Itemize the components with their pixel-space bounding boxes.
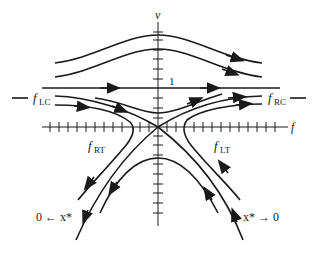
level-marker-label: 1: [169, 75, 175, 87]
f-lt-subscript: LT: [220, 145, 231, 155]
f-axis-label: f: [291, 120, 296, 134]
right-turning-arrow-out: [236, 104, 246, 105]
phase-portrait-diagram: v f 1 f LC f RC f RT f LT 0 ← x* x* → 0: [0, 0, 317, 254]
v-axis-label: v: [155, 8, 161, 22]
f-rc-subscript: RC: [274, 97, 286, 107]
f-lc-subscript: LC: [39, 97, 51, 107]
left-turning-arrow-in: [74, 106, 84, 107]
f-rc-arrow: [228, 97, 240, 98]
right-turning-arrow-in: [222, 165, 228, 173]
right-limit-label: x* → 0: [243, 210, 279, 224]
f-lc-arrow: [112, 106, 122, 110]
lower-parabola-arrow-left: [112, 182, 117, 190]
left-limit-label: 0 ← x*: [36, 210, 72, 224]
f-rt-subscript: RT: [94, 145, 105, 155]
